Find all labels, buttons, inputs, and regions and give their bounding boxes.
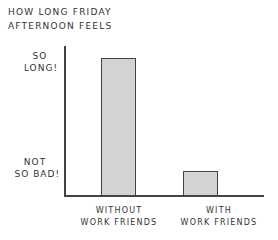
- title-line-2: AFTERNOON FEELS: [8, 19, 112, 33]
- title-line-1: HOW LONG FRIDAY: [8, 5, 112, 19]
- bar-with-work-friends: [183, 171, 218, 195]
- x-label-2-line-1: WITH: [168, 205, 270, 217]
- x-label-2-line-2: WORK FRIENDS: [168, 217, 270, 229]
- x-axis: [64, 195, 264, 197]
- chart-title: HOW LONG FRIDAY AFTERNOON FEELS: [8, 5, 112, 33]
- y-axis: [64, 46, 66, 196]
- y-label-top-line-1: SO: [14, 50, 58, 62]
- x-label-with-work-friends: WITH WORK FRIENDS: [168, 205, 270, 229]
- y-label-top-line-2: LONG!: [14, 62, 58, 74]
- y-label-so-long: SO LONG!: [14, 50, 58, 74]
- y-label-bottom-line-2: SO BAD!: [6, 168, 60, 180]
- y-label-bottom-line-1: NOT: [6, 156, 60, 168]
- x-label-1-line-2: WORK FRIENDS: [68, 217, 170, 229]
- y-label-not-so-bad: NOT SO BAD!: [6, 156, 60, 180]
- x-label-without-work-friends: WITHOUT WORK FRIENDS: [68, 205, 170, 229]
- bar-without-work-friends: [101, 58, 136, 195]
- x-label-1-line-1: WITHOUT: [68, 205, 170, 217]
